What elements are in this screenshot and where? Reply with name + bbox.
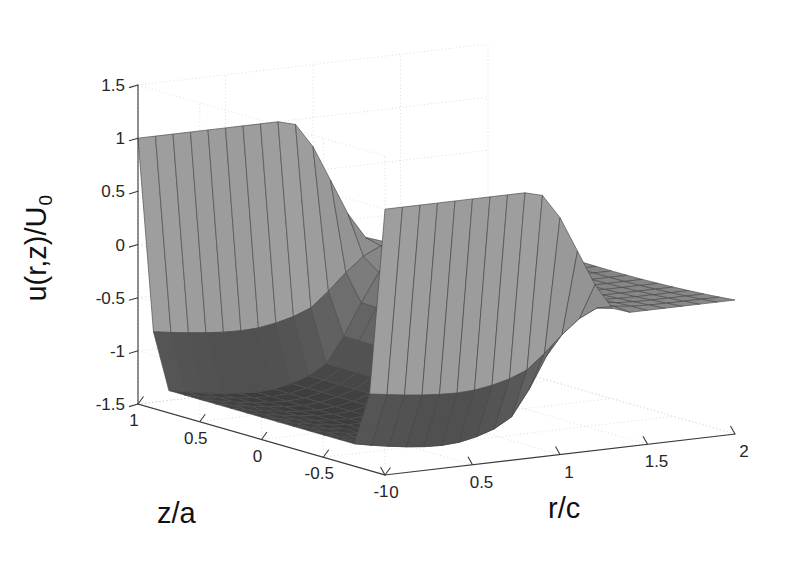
- surface-plot-canvas: 1.510.50-0.5-1-1.510.50-0.5-100.511.52 u…: [0, 0, 785, 562]
- z-axis-tick: [129, 85, 138, 88]
- z-axis-tick-label: -0.5: [96, 289, 125, 308]
- z-axis-tick: [129, 191, 138, 194]
- x-axis-tick-label: 2: [739, 442, 748, 461]
- z-axis-tick: [129, 245, 138, 248]
- y-axis-tick: [200, 414, 206, 422]
- z-axis-tick-label: -1: [110, 342, 125, 361]
- y-axis-tick-label: -0.5: [305, 464, 334, 483]
- y-axis-tick: [138, 397, 144, 405]
- x-axis-tick-label: 0: [389, 483, 398, 502]
- z-axis-tick-label: 1.5: [101, 76, 125, 95]
- y-axis-tick: [323, 450, 329, 458]
- x-axis-tick-label: 1.5: [645, 452, 669, 471]
- z-axis-tick: [129, 404, 138, 407]
- z-axis-label-subscript: 0: [35, 195, 56, 206]
- y-axis-tick-label: 1: [129, 411, 138, 430]
- z-axis-tick: [129, 351, 138, 354]
- z-axis-label-text: u(r,z)/U: [20, 206, 52, 301]
- y-axis-tick: [385, 468, 391, 476]
- y-axis-label: z/a: [157, 497, 197, 529]
- z-axis-tick-label: -1.5: [96, 395, 125, 414]
- z-axis-tick: [129, 138, 138, 141]
- z-axis-tick-label: 0.5: [101, 182, 125, 201]
- grid-line: [138, 44, 488, 85]
- z-axis-tick-label: 0: [116, 236, 125, 255]
- y-axis-tick-label: 0: [253, 447, 262, 466]
- y-axis-tick-label: -1: [373, 482, 388, 501]
- x-axis-label: r/c: [548, 492, 580, 524]
- z-axis-label: u(r,z)/U 0: [20, 195, 56, 302]
- surface-mesh: [138, 122, 735, 447]
- x-axis-tick-label: 0.5: [470, 473, 494, 492]
- surface-plot-figure: 1.510.50-0.5-1-1.510.50-0.5-100.511.52 u…: [0, 0, 785, 562]
- z-axis-tick: [129, 298, 138, 301]
- y-axis-tick-label: 0.5: [184, 429, 208, 448]
- y-axis-tick: [262, 432, 268, 440]
- x-axis-tick-label: 1: [564, 463, 573, 482]
- z-axis-tick-label: 1: [116, 129, 125, 148]
